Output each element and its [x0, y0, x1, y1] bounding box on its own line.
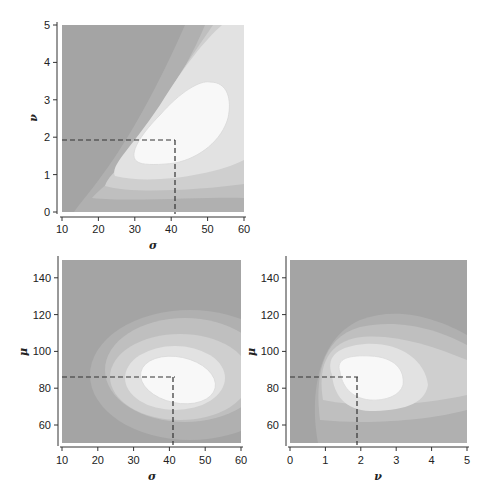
- x-axis-label: σ: [149, 239, 158, 252]
- x-tick-label: 20: [92, 454, 104, 466]
- x-tick-label: 50: [201, 223, 213, 235]
- x-tick-label: 10: [56, 223, 68, 235]
- y-tick-label: 140: [261, 272, 279, 284]
- contour-fill: [290, 260, 467, 443]
- y-tick-label: 0: [44, 206, 50, 218]
- x-tick-label: 4: [429, 454, 435, 466]
- x-tick-label: 0: [287, 454, 293, 466]
- y-tick-label: 80: [39, 382, 51, 394]
- y-tick-label: 100: [261, 345, 279, 357]
- y-tick-label: 140: [33, 272, 51, 284]
- x-tick-label: 60: [238, 223, 250, 235]
- contour-fill: [62, 25, 244, 212]
- y-tick-label: 3: [44, 94, 50, 106]
- x-tick-label: 5: [464, 454, 470, 466]
- y-axis-label: μ: [17, 348, 30, 356]
- x-tick-label: 2: [358, 454, 364, 466]
- x-tick-label: 10: [56, 454, 68, 466]
- y-ticks: 60 80 100 120 140: [33, 272, 58, 431]
- plot-mu-vs-sigma: 60 80 100 120 140 10 20 30 40 50 60 σ μ: [17, 256, 290, 483]
- figure: 0 1 2 3 4 5 10 20 30 40 50 60 σ ν: [0, 0, 491, 499]
- y-tick-label: 120: [33, 309, 51, 321]
- y-tick-label: 4: [44, 56, 50, 68]
- y-tick-label: 5: [44, 19, 50, 31]
- x-tick-label: 20: [92, 223, 104, 235]
- x-ticks: 0 1 2 3 4 5: [287, 447, 470, 466]
- x-tick-label: 30: [127, 454, 139, 466]
- y-axis-label: μ: [245, 348, 258, 356]
- x-tick-label: 1: [322, 454, 328, 466]
- y-tick-label: 120: [261, 309, 279, 321]
- y-axis-label: ν: [27, 114, 40, 122]
- y-tick-label: 1: [44, 169, 50, 181]
- x-axis-label: ν: [374, 470, 382, 483]
- y-tick-label: 60: [267, 419, 279, 431]
- y-ticks: 60 80 100 120 140: [261, 272, 286, 431]
- y-tick-label: 80: [267, 382, 279, 394]
- y-tick-label: 60: [39, 419, 51, 431]
- y-tick-label: 100: [33, 345, 51, 357]
- x-tick-label: 60: [235, 454, 247, 466]
- plot-nu-vs-sigma: 0 1 2 3 4 5 10 20 30 40 50 60 σ ν: [27, 19, 250, 252]
- x-tick-label: 40: [165, 223, 177, 235]
- y-tick-label: 2: [44, 131, 50, 143]
- x-tick-label: 30: [129, 223, 141, 235]
- x-ticks: 10 20 30 40 50 60: [56, 217, 250, 235]
- plot-mu-vs-nu: 60 80 100 120 140 0 1 2 3 4 5 ν μ: [245, 256, 470, 483]
- y-ticks: 0 1 2 3 4 5: [44, 19, 57, 218]
- x-tick-label: 3: [393, 454, 399, 466]
- x-tick-label: 40: [163, 454, 175, 466]
- x-axis-label: σ: [148, 470, 157, 483]
- x-tick-label: 50: [199, 454, 211, 466]
- x-ticks: 10 20 30 40 50 60: [56, 447, 247, 466]
